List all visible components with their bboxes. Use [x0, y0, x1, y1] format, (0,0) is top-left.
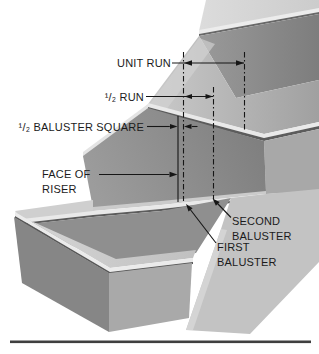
- stair-diagram-figure: UNIT RUN ¹/₂ RUN ¹/₂ BALUSTER SQUARE FAC…: [0, 0, 319, 354]
- face-of-riser-label-line2: RISER: [42, 182, 90, 197]
- step1-riser-front-face: [109, 263, 192, 332]
- first-baluster-label-line2: BALUSTER: [217, 255, 277, 270]
- second-baluster-label-line1: SECOND: [232, 214, 292, 229]
- face-of-riser-label: FACE OF RISER: [42, 167, 90, 197]
- ground-line: [10, 341, 311, 344]
- first-baluster-label-line1: FIRST: [217, 240, 277, 255]
- first-baluster-label: FIRST BALUSTER: [217, 240, 277, 269]
- half-run-label: ¹/₂ RUN: [105, 90, 144, 105]
- face-of-riser-label-line1: FACE OF: [42, 167, 90, 182]
- unit-run-label: UNIT RUN: [117, 56, 171, 71]
- second-baluster-label: SECOND BALUSTER: [232, 214, 292, 243]
- half-baluster-square-label: ¹/₂ BALUSTER SQUARE: [19, 120, 144, 135]
